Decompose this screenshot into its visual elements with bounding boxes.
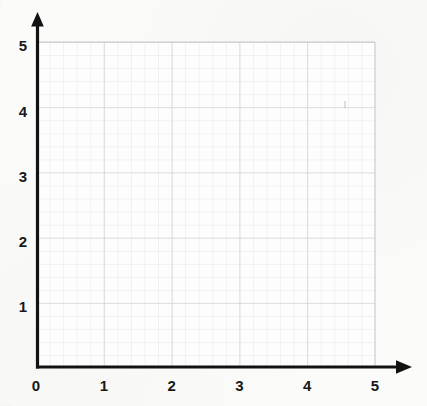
x-tick-label-1: 1 [100, 377, 108, 394]
y-tick-label-4: 4 [19, 103, 28, 120]
y-tick-label-3: 3 [19, 168, 27, 185]
x-tick-label-3: 3 [235, 377, 243, 394]
x-tick-label-5: 5 [371, 377, 379, 394]
x-axis-arrowhead-icon [396, 360, 412, 373]
major-gridlines [36, 42, 375, 368]
y-axis-arrowhead-icon [31, 12, 44, 27]
paper-smudge-artifact [344, 101, 346, 108]
x-tick-label-0: 0 [32, 377, 40, 394]
y-axis-tick-labels: 1 2 3 4 5 [19, 37, 28, 315]
x-axis-tick-labels: 0 1 2 3 4 5 [32, 377, 379, 394]
y-tick-label-5: 5 [19, 37, 27, 54]
x-tick-label-4: 4 [303, 377, 312, 394]
coordinate-plane: 0 1 2 3 4 5 1 2 3 4 5 [0, 0, 427, 406]
grid-area [36, 42, 375, 368]
graph-paper-figure: 0 1 2 3 4 5 1 2 3 4 5 [0, 0, 427, 406]
y-tick-label-1: 1 [19, 298, 27, 315]
x-tick-label-2: 2 [167, 377, 175, 394]
y-tick-label-2: 2 [19, 233, 27, 250]
